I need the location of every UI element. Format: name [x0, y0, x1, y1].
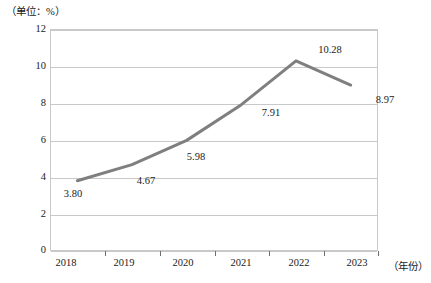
- gridline-2: [51, 215, 377, 216]
- gridline-8: [51, 104, 377, 105]
- ytick-label-12: 12: [36, 23, 47, 34]
- gridline-6: [51, 141, 377, 142]
- ytick-label-6: 6: [41, 134, 46, 145]
- ytick-label-10: 10: [36, 60, 47, 71]
- ytick-label-0: 0: [41, 244, 46, 255]
- ytick-label-2: 2: [41, 208, 46, 219]
- xtick-mark-5: [378, 251, 379, 256]
- xtick-mark-1: [160, 251, 161, 256]
- ytick-label-8: 8: [41, 97, 46, 108]
- unit-note: （单位：%）: [6, 3, 65, 18]
- data-label-2019: 4.67: [137, 175, 155, 186]
- plot-area: [50, 29, 378, 251]
- xtick-mark-4: [324, 251, 325, 256]
- xtick-label-2022: 2022: [289, 257, 310, 268]
- ytick-label-4: 4: [41, 171, 46, 182]
- xtick-label-2021: 2021: [231, 257, 252, 268]
- xtick-mark-0: [105, 251, 106, 256]
- data-label-2022: 10.28: [318, 44, 342, 55]
- xtick-label-2018: 2018: [56, 257, 77, 268]
- gridline-0: [51, 251, 377, 252]
- data-label-2018: 3.80: [64, 188, 82, 199]
- xtick-label-2020: 2020: [173, 257, 194, 268]
- gridline-4: [51, 178, 377, 179]
- xtick-mark-3: [269, 251, 270, 256]
- xtick-label-2019: 2019: [114, 257, 135, 268]
- data-label-2020: 5.98: [187, 151, 205, 162]
- gridline-12: [51, 30, 377, 31]
- xtick-mark-2: [215, 251, 216, 256]
- xaxis-title: （年份）: [388, 258, 428, 273]
- line-chart: （单位：%） 12 10 8 6 4 2 0 2018 2019 2020 20…: [0, 0, 431, 283]
- xtick-label-2023: 2023: [347, 257, 368, 268]
- data-label-2021: 7.91: [262, 107, 280, 118]
- gridline-10: [51, 67, 377, 68]
- data-label-2023: 8.97: [376, 94, 394, 105]
